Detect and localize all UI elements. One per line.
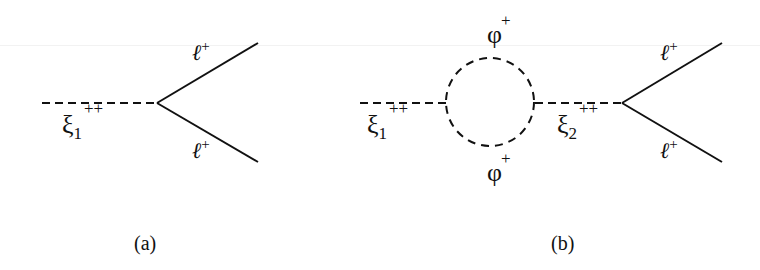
- diagram-a-lines: [42, 43, 258, 162]
- particle-symbol: ℓ: [660, 138, 669, 163]
- particle-symbol: φ: [487, 20, 502, 49]
- charge: +: [501, 12, 511, 29]
- particle-symbol: ℓ: [192, 138, 201, 163]
- label-lepton-lower-a: ℓ+: [192, 140, 210, 162]
- charge: +: [201, 38, 209, 54]
- subscript: 2: [569, 124, 578, 143]
- caption-b: (b): [551, 233, 574, 253]
- charge: ++: [579, 100, 598, 117]
- label-lepton-lower-b: ℓ+: [660, 140, 678, 162]
- label-lepton-upper-b: ℓ+: [660, 42, 678, 64]
- label-xi1-a: ξ1++: [62, 112, 82, 138]
- charge: +: [501, 150, 511, 167]
- particle-symbol: ξ: [367, 110, 379, 139]
- charge: ++: [84, 100, 103, 117]
- subscript: 1: [74, 124, 83, 143]
- feynman-diagram-figure: ξ1++ ℓ+ ℓ+ (a) ξ1++ φ+ φ+ ξ2++ ℓ+ ℓ+ (b): [0, 0, 760, 270]
- charge: +: [669, 136, 677, 152]
- phi-loop: [446, 58, 534, 146]
- subscript: 1: [379, 124, 388, 143]
- particle-symbol: ℓ: [660, 40, 669, 65]
- charge: +: [201, 136, 209, 152]
- label-phi-lower: φ+: [487, 160, 502, 186]
- label-phi-upper: φ+: [487, 22, 502, 48]
- particle-symbol: ξ: [62, 110, 74, 139]
- particle-symbol: ℓ: [192, 40, 201, 65]
- particle-symbol: ξ: [557, 110, 569, 139]
- charge: +: [669, 38, 677, 54]
- caption-a: (a): [134, 233, 156, 253]
- label-xi1-b: ξ1++: [367, 112, 387, 138]
- charge: ++: [389, 100, 408, 117]
- particle-symbol: φ: [487, 158, 502, 187]
- label-xi2-b: ξ2++: [557, 112, 577, 138]
- label-lepton-upper-a: ℓ+: [192, 42, 210, 64]
